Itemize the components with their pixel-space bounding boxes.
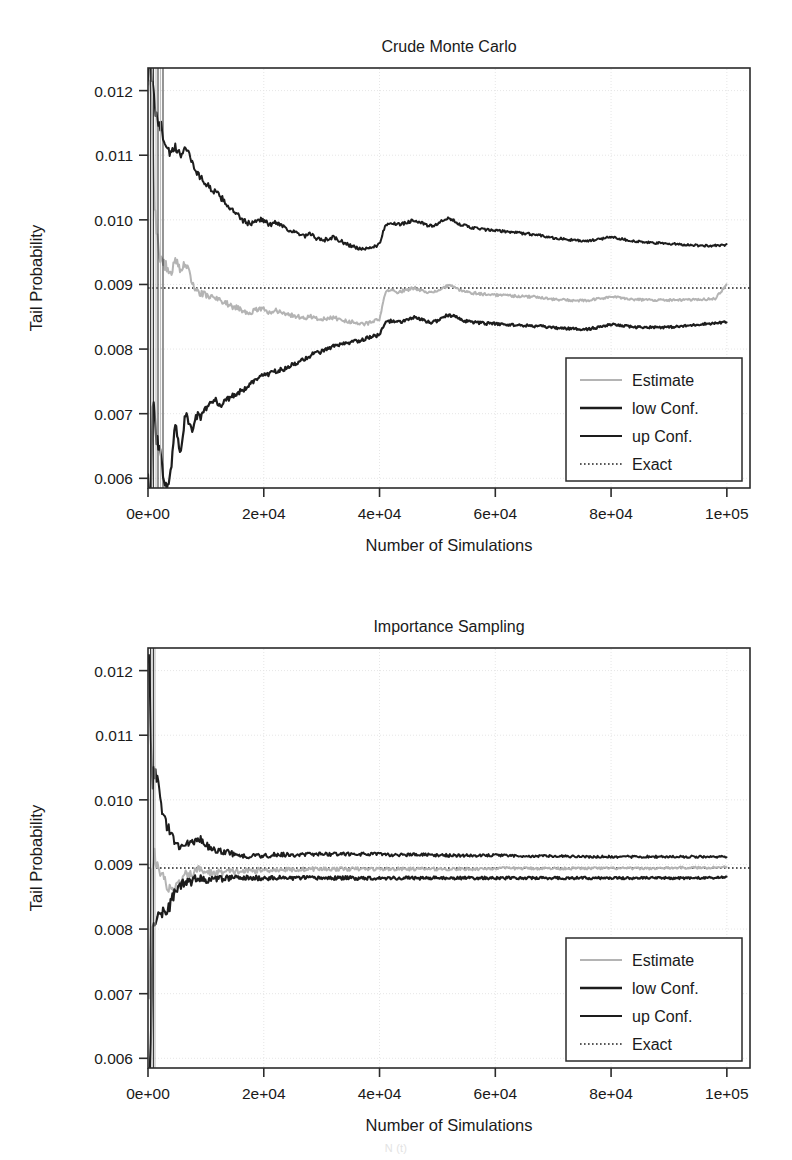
x-tick-label: 1e+05 bbox=[705, 1085, 749, 1102]
y-tick-label: 0.012 bbox=[94, 83, 133, 100]
legend-label: Exact bbox=[632, 1036, 673, 1053]
x-axis: 0e+002e+044e+046e+048e+041e+05 bbox=[126, 488, 748, 522]
chart-group-crude-monte-carlo: Crude Monte Carlo0.0060.0070.0080.0090.0… bbox=[27, 38, 750, 554]
legend-label: Estimate bbox=[632, 952, 694, 969]
x-tick-label: 8e+04 bbox=[589, 505, 633, 522]
chart-svg-importance-sampling: Importance Sampling0.0060.0070.0080.0090… bbox=[0, 580, 792, 1160]
x-axis: 0e+002e+044e+046e+048e+041e+05 bbox=[126, 1068, 748, 1102]
x-tick-label: 4e+04 bbox=[358, 1085, 402, 1102]
x-tick-label: 6e+04 bbox=[474, 1085, 518, 1102]
y-tick-label: 0.010 bbox=[94, 212, 133, 229]
legend: Estimatelow Conf.up Conf.Exact bbox=[566, 938, 742, 1061]
chart-title: Crude Monte Carlo bbox=[381, 38, 516, 55]
y-axis: 0.0060.0070.0080.0090.0100.0110.012 bbox=[94, 83, 148, 488]
chart-svg-crude-monte-carlo: Crude Monte Carlo0.0060.0070.0080.0090.0… bbox=[0, 0, 792, 580]
legend-label: low Conf. bbox=[632, 980, 699, 997]
y-tick-label: 0.006 bbox=[94, 470, 133, 487]
x-tick-label: 1e+05 bbox=[705, 505, 749, 522]
chart-group-importance-sampling: Importance Sampling0.0060.0070.0080.0090… bbox=[27, 618, 750, 1134]
series-line-up-conf bbox=[148, 655, 726, 858]
x-axis-title: Number of Simulations bbox=[366, 1116, 533, 1134]
y-tick-label: 0.008 bbox=[94, 921, 133, 938]
x-axis-title: Number of Simulations bbox=[366, 536, 533, 554]
y-tick-label: 0.008 bbox=[94, 341, 133, 358]
y-tick-label: 0.007 bbox=[94, 986, 133, 1003]
chart-panel-importance-sampling: Importance Sampling0.0060.0070.0080.0090… bbox=[0, 580, 792, 1160]
legend-label: up Conf. bbox=[632, 1008, 692, 1025]
legend: Estimatelow Conf.up Conf.Exact bbox=[566, 358, 742, 481]
x-tick-label: 0e+00 bbox=[126, 505, 170, 522]
legend-label: low Conf. bbox=[632, 400, 699, 417]
y-tick-label: 0.009 bbox=[94, 856, 133, 873]
x-tick-label: 8e+04 bbox=[589, 1085, 633, 1102]
x-tick-label: 6e+04 bbox=[474, 505, 518, 522]
y-tick-label: 0.011 bbox=[95, 147, 133, 164]
chart-panel-crude-monte-carlo: Crude Monte Carlo0.0060.0070.0080.0090.0… bbox=[0, 0, 792, 580]
y-tick-label: 0.011 bbox=[95, 727, 133, 744]
y-tick-label: 0.012 bbox=[94, 663, 133, 680]
y-axis-title: Tail Probability bbox=[27, 224, 45, 331]
x-tick-label: 4e+04 bbox=[358, 505, 402, 522]
y-axis-title: Tail Probability bbox=[27, 804, 45, 911]
x-tick-label: 2e+04 bbox=[242, 1085, 286, 1102]
figure-two-panel-convergence: Crude Monte Carlo0.0060.0070.0080.0090.0… bbox=[0, 0, 792, 1160]
y-tick-label: 0.007 bbox=[94, 406, 133, 423]
chart-title: Importance Sampling bbox=[373, 618, 524, 635]
x-tick-label: 2e+04 bbox=[242, 505, 286, 522]
y-tick-label: 0.010 bbox=[94, 792, 133, 809]
y-tick-label: 0.009 bbox=[94, 276, 133, 293]
legend-label: up Conf. bbox=[632, 428, 692, 445]
y-tick-label: 0.006 bbox=[94, 1050, 133, 1067]
legend-label: Exact bbox=[632, 456, 673, 473]
legend-label: Estimate bbox=[632, 372, 694, 389]
page-caption-fragment: N (t) bbox=[0, 1142, 792, 1154]
y-axis: 0.0060.0070.0080.0090.0100.0110.012 bbox=[94, 663, 148, 1068]
x-tick-label: 0e+00 bbox=[126, 1085, 170, 1102]
